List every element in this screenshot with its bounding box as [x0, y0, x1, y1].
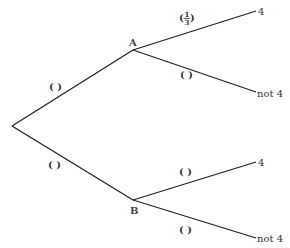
outcome-b-4: 4 [258, 157, 264, 168]
svg-text:(: ( [179, 12, 184, 23]
prob-a-to-not4: ( ) [180, 69, 193, 80]
edge-b-to-not4 [133, 200, 256, 238]
fraction-denominator: 3 [185, 18, 190, 27]
prob-root-to-b: ( ) [48, 159, 61, 170]
edge-b-to-4 [133, 162, 256, 200]
outcome-a-4: 4 [258, 6, 264, 17]
prob-root-to-a: ( ) [49, 81, 62, 92]
prob-b-to-not4: ( ) [179, 224, 192, 235]
svg-text:): ) [190, 12, 195, 23]
edge-root-to-a [12, 50, 133, 126]
edge-root-to-b [12, 126, 133, 200]
outcome-b-not4: not 4 [257, 233, 283, 244]
prob-a-to-4: ( 1 3 ) [179, 10, 195, 27]
node-a-label: A [128, 37, 137, 48]
edge-a-to-not4 [133, 50, 256, 92]
prob-b-to-4: ( ) [179, 166, 192, 177]
probability-tree-diagram: A B ( ) ( ) ( 1 3 ) ( ) ( ) ( ) 4 not 4 … [0, 0, 290, 248]
outcome-a-not4: not 4 [257, 88, 283, 99]
node-b-label: B [130, 205, 138, 216]
